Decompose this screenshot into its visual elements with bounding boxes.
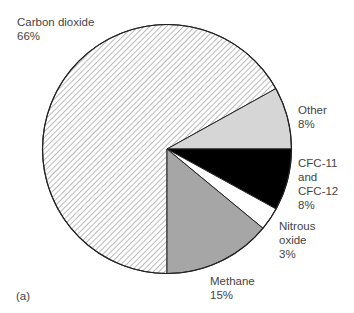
label-carbon-dioxide: Carbon dioxide 66% <box>17 15 94 43</box>
label-other: Other 8% <box>298 103 327 131</box>
co2-percent: 66% <box>17 29 94 43</box>
label-methane: Methane 15% <box>210 274 255 302</box>
label-nitrous-oxide: Nitrous oxide 3% <box>279 219 315 261</box>
panel-label: (a) <box>16 289 30 303</box>
methane-percent: 15% <box>210 288 255 302</box>
cfc-name-line1: CFC-11 <box>298 156 338 170</box>
n2o-name-line1: Nitrous <box>279 219 315 233</box>
cfc-percent: 8% <box>298 198 338 212</box>
n2o-name-line2: oxide <box>279 233 315 247</box>
label-cfc: CFC-11 and CFC-12 8% <box>298 156 338 212</box>
cfc-name-line2: and <box>298 170 338 184</box>
other-percent: 8% <box>298 117 327 131</box>
n2o-percent: 3% <box>279 247 315 261</box>
co2-name: Carbon dioxide <box>17 15 94 29</box>
other-name: Other <box>298 103 327 117</box>
cfc-name-line3: CFC-12 <box>298 184 338 198</box>
methane-name: Methane <box>210 274 255 288</box>
